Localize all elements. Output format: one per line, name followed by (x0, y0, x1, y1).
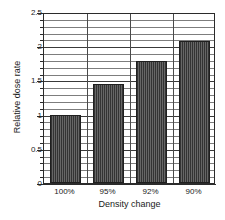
y-tick-2.2 (40, 34, 43, 35)
y-tick-label-0: 0 (38, 180, 42, 188)
y-tick-label-2.5: 2.5 (31, 9, 42, 17)
bar-100% (50, 115, 81, 183)
y-tick-1.3 (40, 95, 43, 96)
y-tick-label-2: 2 (38, 43, 42, 51)
x-tick-label-95%: 95% (86, 187, 129, 196)
y-tick-0.8 (40, 129, 43, 130)
y-tick-0.1 (40, 177, 43, 178)
figure-container: 00.511.522.5 100%95%92%90% Density chang… (0, 0, 225, 220)
y-tick-0.2 (40, 170, 43, 171)
bar-95% (93, 84, 124, 183)
y-tick-1.9 (40, 54, 43, 55)
plot-area (43, 13, 215, 184)
y-tick-label-0.5: 0.5 (31, 146, 42, 154)
y-tick-1.6 (40, 75, 43, 76)
x-axis-line (43, 184, 216, 185)
x-axis-title: Density change (43, 199, 216, 209)
y-tick-0.9 (40, 122, 43, 123)
y-tick-0.3 (40, 163, 43, 164)
x-tick-label-90%: 90% (172, 187, 215, 196)
y-axis-line (43, 13, 44, 185)
y-tick-0.4 (40, 157, 43, 158)
y-tick-1.2 (40, 102, 43, 103)
bar-series (44, 14, 214, 183)
y-tick-1.7 (40, 68, 43, 69)
y-tick-2.4 (40, 20, 43, 21)
y-tick-0.7 (40, 136, 43, 137)
y-tick-label-1.5: 1.5 (31, 77, 42, 85)
y-axis-title: Relative dose rate (12, 37, 22, 157)
x-tick-label-100%: 100% (43, 187, 86, 196)
y-tick-1.1 (40, 109, 43, 110)
bar-90% (179, 41, 210, 183)
bar-92% (136, 61, 167, 183)
plot-wrapper (43, 13, 215, 184)
y-tick-1.8 (40, 61, 43, 62)
x-tick-label-92%: 92% (129, 187, 172, 196)
y-tick-0.6 (40, 143, 43, 144)
y-tick-label-1: 1 (38, 112, 42, 120)
y-tick-1.4 (40, 88, 43, 89)
y-tick-2.3 (40, 27, 43, 28)
